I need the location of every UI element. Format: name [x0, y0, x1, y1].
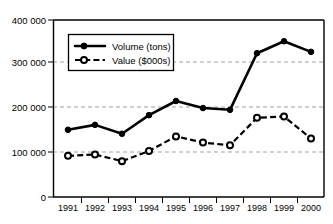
- x-tick-label-1996: 1996: [193, 203, 213, 213]
- data-point[interactable]: [92, 152, 98, 158]
- x-tick-label-2000: 2000: [301, 203, 321, 213]
- data-point[interactable]: [227, 107, 233, 113]
- x-tick-label-1999: 1999: [274, 203, 294, 213]
- data-point[interactable]: [308, 49, 314, 55]
- data-point[interactable]: [92, 122, 98, 128]
- data-point[interactable]: [227, 142, 233, 148]
- x-axis-labels: 1991 1992 1993 1994 1995 1996 1997 1998 …: [58, 203, 321, 213]
- data-point[interactable]: [119, 158, 125, 164]
- data-point[interactable]: [119, 131, 125, 137]
- legend-label-value: Value ($000s): [112, 55, 170, 66]
- x-tick-label-1998: 1998: [247, 203, 267, 213]
- x-tick-label-1995: 1995: [166, 203, 186, 213]
- line-chart: 400 000 300 000 200 000 100 000 0 1991 1…: [0, 0, 333, 224]
- data-point[interactable]: [173, 133, 179, 139]
- legend-label-volume: Volume (tons): [112, 41, 171, 52]
- x-tick-label-1993: 1993: [112, 203, 132, 213]
- x-tick-label-1992: 1992: [85, 203, 105, 213]
- y-tick-label-200000: 200 000: [12, 102, 46, 113]
- data-point[interactable]: [281, 113, 287, 119]
- data-point[interactable]: [254, 115, 260, 121]
- y-tick-label-100000: 100 000: [12, 147, 46, 158]
- data-point[interactable]: [146, 112, 152, 118]
- y-tick-label-300000: 300 000: [12, 57, 46, 68]
- legend: Volume (tons) Value ($000s): [69, 35, 174, 71]
- x-tick-label-1991: 1991: [58, 203, 78, 213]
- y-tickmarks: [48, 20, 53, 197]
- data-point[interactable]: [65, 127, 71, 133]
- data-point[interactable]: [200, 105, 206, 111]
- x-tick-label-1994: 1994: [139, 203, 159, 213]
- y-tick-label-0: 0: [41, 192, 46, 203]
- legend-marker-volume: [81, 43, 87, 49]
- y-axis-labels: 400 000 300 000 200 000 100 000 0: [12, 15, 46, 203]
- x-tick-label-1997: 1997: [220, 203, 240, 213]
- data-point[interactable]: [281, 38, 287, 44]
- legend-marker-value: [81, 57, 87, 63]
- data-point[interactable]: [308, 136, 314, 142]
- data-point[interactable]: [65, 153, 71, 159]
- data-point[interactable]: [200, 140, 206, 146]
- y-tick-label-400000: 400 000: [12, 15, 46, 26]
- data-point[interactable]: [254, 50, 260, 56]
- data-point[interactable]: [173, 98, 179, 104]
- chart-canvas: 400 000 300 000 200 000 100 000 0 1991 1…: [0, 0, 333, 224]
- data-point[interactable]: [146, 148, 152, 154]
